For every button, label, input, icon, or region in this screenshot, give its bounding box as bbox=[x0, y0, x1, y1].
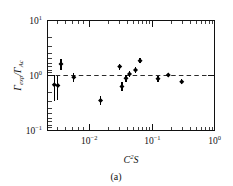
data-point bbox=[52, 75, 57, 101]
data-marker bbox=[138, 58, 143, 63]
data-marker bbox=[59, 61, 64, 66]
svg-text:10−1: 10−1 bbox=[144, 134, 160, 146]
x-axis-ticks bbox=[58, 124, 215, 131]
data-marker bbox=[117, 64, 122, 69]
data-point bbox=[71, 73, 76, 82]
data-marker bbox=[166, 73, 171, 78]
svg-text:C2S: C2S bbox=[124, 153, 139, 165]
data-marker bbox=[52, 82, 57, 87]
x-tick-label-2-base: 10 bbox=[144, 136, 154, 146]
data-point bbox=[55, 76, 60, 100]
figure-panel: 101 100 10−1 10−2 10−1 100 Γexp/ΓAc bbox=[0, 0, 233, 186]
data-point bbox=[155, 76, 160, 82]
y-axis-title: Γexp/ΓAc bbox=[12, 60, 24, 91]
data-marker bbox=[123, 76, 128, 81]
svg-text:101: 101 bbox=[29, 14, 42, 26]
svg-text:10−1: 10−1 bbox=[26, 124, 42, 136]
panel-caption: (a) bbox=[110, 171, 121, 183]
x-axis-ticks-top bbox=[58, 21, 213, 28]
data-marker bbox=[98, 98, 103, 103]
data-point bbox=[179, 79, 184, 84]
svg-text:100: 100 bbox=[208, 134, 221, 146]
data-marker bbox=[155, 76, 160, 81]
caption-text: (a) bbox=[110, 171, 121, 183]
y-axis-ticks-right bbox=[208, 21, 215, 131]
data-point bbox=[123, 75, 128, 82]
x-tick-label-3-base: 10 bbox=[208, 136, 218, 146]
data-point bbox=[138, 58, 143, 63]
y-tick-label-top-exp: 1 bbox=[39, 14, 42, 21]
scatter-plot: 101 100 10−1 10−2 10−1 100 Γexp/ΓAc bbox=[0, 0, 233, 186]
data-point bbox=[133, 67, 138, 73]
data-marker bbox=[55, 83, 60, 88]
x-tick-label-2-exp: −1 bbox=[154, 134, 161, 141]
y-tick-labels: 101 100 10−1 bbox=[26, 14, 42, 136]
y-tick-label-bot-exp: −1 bbox=[35, 124, 42, 131]
y-tick-label-mid-exp: 0 bbox=[39, 69, 42, 76]
x-axis-title: C2S bbox=[124, 153, 139, 165]
y-tick-label-top-base: 10 bbox=[29, 16, 39, 26]
y-axis-title-den-sub: Ac bbox=[17, 60, 24, 68]
y-axis-ticks bbox=[48, 21, 55, 131]
svg-text:10−2: 10−2 bbox=[81, 134, 97, 146]
data-point bbox=[127, 71, 132, 77]
data-point bbox=[59, 59, 64, 70]
data-point bbox=[117, 64, 122, 70]
data-marker bbox=[179, 79, 184, 84]
x-tick-label-1-base: 10 bbox=[81, 136, 91, 146]
data-point bbox=[119, 82, 124, 91]
data-marker bbox=[119, 84, 124, 89]
x-axis-title-tail: S bbox=[133, 154, 138, 165]
svg-text:100: 100 bbox=[29, 69, 42, 81]
data-point bbox=[98, 96, 103, 105]
y-tick-label-mid-base: 10 bbox=[29, 71, 39, 81]
data-point bbox=[166, 73, 171, 78]
x-tick-label-1-exp: −2 bbox=[91, 134, 98, 141]
data-points-layer bbox=[52, 58, 184, 105]
y-tick-label-bot-base: 10 bbox=[26, 126, 36, 136]
data-marker bbox=[133, 67, 138, 72]
x-tick-labels: 10−2 10−1 100 bbox=[81, 134, 221, 146]
svg-text:Γexp/ΓAc: Γexp/ΓAc bbox=[12, 60, 24, 91]
x-tick-label-3-exp: 0 bbox=[218, 134, 221, 141]
